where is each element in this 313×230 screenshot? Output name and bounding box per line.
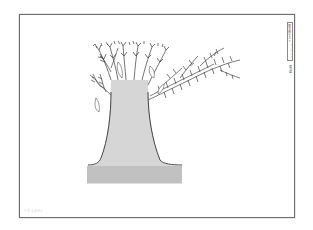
page-number: 第1図 bbox=[288, 65, 293, 73]
footer-caption: バウムテスト bbox=[24, 209, 44, 213]
tree-illustration bbox=[0, 0, 313, 230]
side-label-subtitle: ワークシート bbox=[288, 44, 292, 60]
canopy-top bbox=[93, 41, 169, 85]
side-label-title: 樹木画テスト bbox=[288, 24, 292, 42]
branch-knots bbox=[95, 62, 164, 112]
canopy-right bbox=[148, 48, 240, 100]
ground-hatching bbox=[87, 167, 182, 183]
side-label-box: 樹木画テスト ワークシート bbox=[287, 22, 293, 61]
